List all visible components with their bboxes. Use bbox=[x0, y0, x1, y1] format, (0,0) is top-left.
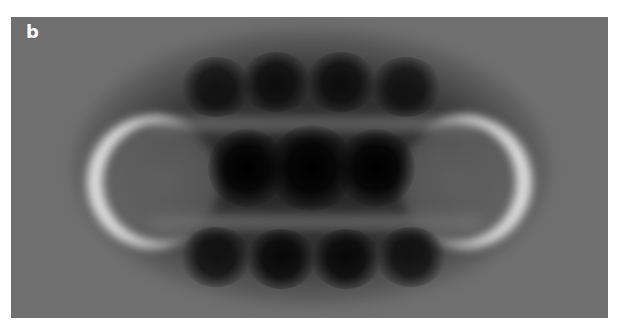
dark-feature bbox=[371, 57, 441, 117]
microscopy-image-panel: b bbox=[11, 17, 608, 318]
dark-feature bbox=[306, 52, 376, 112]
dark-feature bbox=[376, 227, 446, 287]
right-bright-lobe bbox=[396, 122, 516, 242]
panel-label: b bbox=[26, 21, 39, 42]
left-bright-lobe bbox=[103, 122, 223, 242]
dark-feature bbox=[337, 129, 415, 207]
dark-feature bbox=[311, 229, 381, 289]
dark-feature bbox=[246, 229, 316, 289]
dark-feature bbox=[181, 227, 251, 287]
dark-feature bbox=[241, 52, 311, 112]
